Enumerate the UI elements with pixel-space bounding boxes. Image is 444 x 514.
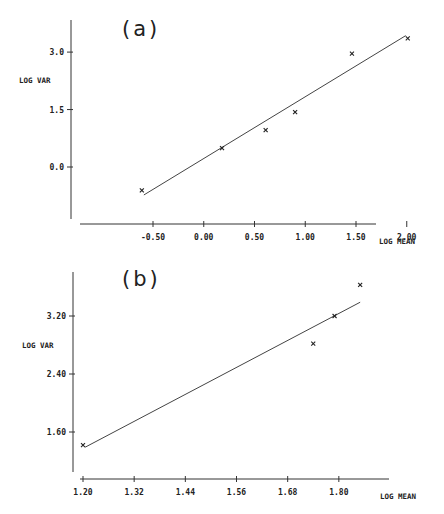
- panel-b-y-axis-label: LOG VAR: [22, 341, 54, 350]
- panel-b-data-point: [311, 342, 315, 346]
- panel-a-data-point: [293, 110, 297, 114]
- panel-a-data-point: [406, 36, 410, 40]
- panel-b-x-tick-label: 1.20: [73, 488, 92, 497]
- panel-a-data-point: [264, 128, 268, 132]
- panel-a-y-tick-label: 0.0: [50, 163, 65, 172]
- panel-a-y-tick-label: 1.5: [50, 106, 65, 115]
- panel-a-x-tick-label: 1.50: [346, 233, 365, 242]
- panel-a-y-axis-label: LOG VAR: [19, 76, 51, 85]
- panel-a-x-tick-label: 1.00: [296, 233, 315, 242]
- panel-b-regression-line: [85, 302, 360, 447]
- panel-b-y-tick-label: 3.20: [47, 312, 66, 321]
- panel-a-x-tick-label: -0.50: [141, 233, 165, 242]
- panel-b-y-tick-label: 2.40: [47, 370, 66, 379]
- panel-b-x-tick-label: 1.44: [176, 488, 195, 497]
- panel-a-title: (a): [122, 17, 160, 41]
- panel-b: (b) LOG VAR LOG MEAN 1.201.321.441.561.6…: [22, 267, 417, 501]
- panel-b-data-point: [81, 443, 85, 447]
- panel-a: (a) LOG VAR LOG MEAN -0.500.000.501.001.…: [19, 17, 417, 246]
- panel-b-x-tick-label: 1.56: [227, 488, 246, 497]
- panel-a-y-tick-label: 3.0: [50, 48, 65, 57]
- figure: (a) LOG VAR LOG MEAN -0.500.000.501.001.…: [0, 0, 444, 514]
- panel-b-x-tick-label: 1.68: [278, 488, 297, 497]
- panel-b-y-tick-label: 1.60: [47, 428, 66, 437]
- panel-b-x-tick-label: 1.32: [125, 488, 144, 497]
- panel-a-x-tick-label: 0.00: [194, 233, 213, 242]
- panel-a-data-point: [350, 52, 354, 56]
- panel-a-x-tick-label: 0.50: [245, 233, 264, 242]
- panel-b-x-axis-label: LOG MEAN: [380, 492, 417, 501]
- panel-b-x-tick-label: 1.80: [329, 488, 348, 497]
- panel-a-x-tick-label: 2.00: [397, 233, 416, 242]
- panel-b-data-point: [358, 283, 362, 287]
- panel-a-regression-line: [144, 36, 406, 195]
- panel-a-data-point: [140, 188, 144, 192]
- panel-b-title: (b): [122, 267, 161, 291]
